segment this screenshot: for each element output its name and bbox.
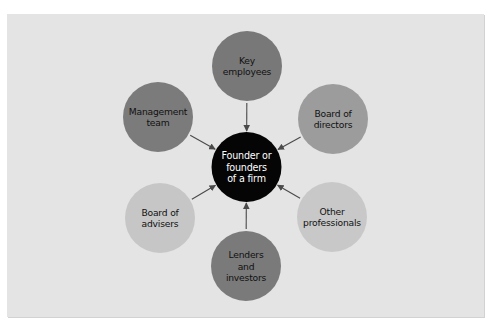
- arrow-board-of-advisers-to-founder: [192, 185, 216, 199]
- node-board-of-advisers: Board ofadvisers: [125, 183, 195, 253]
- arrow-management-team-to-founder: [190, 135, 215, 149]
- node-label-line: advisers: [142, 218, 179, 229]
- node-label-line: investors: [226, 272, 267, 283]
- arrow-board-of-directors-to-founder: [278, 137, 301, 150]
- node-label-line: team: [146, 117, 169, 128]
- node-label-line: employees: [223, 66, 272, 77]
- node-label-line: and: [238, 261, 255, 272]
- node-label-line: of a firm: [227, 173, 266, 184]
- node-label-line: Founder or: [221, 150, 271, 161]
- node-label-line: Management: [129, 106, 188, 117]
- node-label-line: Other: [319, 206, 345, 217]
- node-management-team: Managementteam: [123, 82, 193, 152]
- node-label-line: Board of: [141, 207, 179, 218]
- node-board-of-directors: Board ofdirectors: [298, 84, 368, 154]
- center-node-founder: Founder orfoundersof a firm: [212, 132, 282, 202]
- node-key-employees: Keyemployees: [212, 31, 282, 101]
- nodes: KeyemployeesBoard ofdirectorsOtherprofes…: [123, 31, 368, 301]
- node-label-line: founders: [226, 162, 267, 173]
- node-lenders-and-investors: Lendersandinvestors: [211, 231, 281, 301]
- node-label-line: professionals: [303, 217, 361, 228]
- node-other-professionals: Otherprofessionals: [297, 182, 367, 252]
- node-label-line: Key: [239, 55, 256, 66]
- node-label-line: Lenders: [228, 249, 263, 260]
- founder-network-diagram: KeyemployeesBoard ofdirectorsOtherprofes…: [0, 0, 496, 333]
- arrow-other-professionals-to-founder: [278, 185, 300, 198]
- node-label-line: Board of: [314, 108, 352, 119]
- node-label-line: directors: [314, 119, 353, 130]
